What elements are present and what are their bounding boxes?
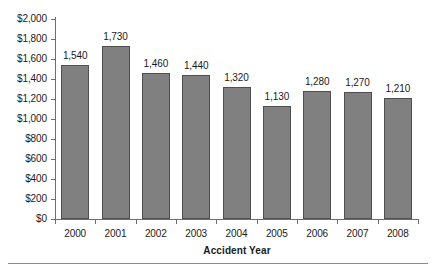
plot-area: 1,5401,7301,4601,4401,3201,1301,2801,270… [55, 19, 418, 219]
x-axis-tick-mark [257, 219, 258, 224]
y-axis-tick-label: $600 [25, 152, 47, 165]
x-axis-category-label: 2001 [94, 227, 138, 240]
bar [344, 92, 372, 219]
bar-group: 1,540 [61, 19, 89, 219]
x-axis-tick-mark [337, 219, 338, 224]
y-axis-tick-label: $1,600 [17, 52, 47, 65]
y-axis-tick-label: $0 [36, 212, 47, 225]
x-axis-category-label: 2003 [174, 227, 218, 240]
bar [303, 91, 331, 219]
x-axis-tick-mark [136, 219, 137, 224]
x-axis-tick-mark [418, 219, 419, 224]
y-axis-tick-label: $400 [25, 172, 47, 185]
bar-value-label: 1,130 [257, 91, 297, 103]
x-axis-category-label: 2005 [255, 227, 299, 240]
x-axis-tick-mark [297, 219, 298, 224]
bar [61, 65, 89, 219]
bar-group: 1,210 [384, 19, 412, 219]
bar-group: 1,460 [142, 19, 170, 219]
bar [223, 87, 251, 219]
y-axis-tick-label: $200 [25, 192, 47, 205]
x-axis-line [55, 219, 419, 220]
y-axis-tick-label: $2,000 [17, 12, 47, 25]
y-axis-tick-label: $1,400 [17, 72, 47, 85]
y-axis-tick-label: $1,200 [17, 92, 47, 105]
bar-value-label: 1,460 [136, 58, 176, 70]
bar-group: 1,130 [263, 19, 291, 219]
y-axis-tick-label: $1,000 [17, 112, 47, 125]
x-axis-category-label: 2006 [295, 227, 339, 240]
bar [142, 73, 170, 219]
bar-group: 1,320 [223, 19, 251, 219]
y-axis-tick-label: $1,800 [17, 32, 47, 45]
x-axis-category-label: 2008 [376, 227, 420, 240]
bar-value-label: 1,270 [338, 77, 378, 89]
bar [182, 75, 210, 219]
bottom-divider [8, 263, 428, 264]
y-axis-tick-label: $800 [25, 132, 47, 145]
x-axis-category-label: 2007 [336, 227, 380, 240]
bar-value-label: 1,540 [55, 50, 95, 62]
x-axis-tick-mark [95, 219, 96, 224]
bar-value-label: 1,320 [217, 72, 257, 84]
bar-value-label: 1,210 [378, 83, 418, 95]
bar [263, 106, 291, 219]
bar [102, 46, 130, 219]
x-axis-category-label: 2000 [53, 227, 97, 240]
bar-group: 1,730 [102, 19, 130, 219]
x-axis-tick-mark [55, 219, 56, 224]
bar-chart-figure: $0$200$400$600$800$1,000$1,200$1,400$1,6… [0, 0, 439, 272]
x-axis-tick-mark [216, 219, 217, 224]
x-axis-tick-mark [176, 219, 177, 224]
x-axis-title: Accident Year [55, 245, 419, 256]
bar-group: 1,280 [303, 19, 331, 219]
bar-group: 1,440 [182, 19, 210, 219]
bar-value-label: 1,440 [176, 60, 216, 72]
x-axis-tick-mark [378, 219, 379, 224]
bar [384, 98, 412, 219]
x-axis-category-label: 2004 [215, 227, 259, 240]
bar-value-label: 1,730 [96, 31, 136, 43]
bar-group: 1,270 [344, 19, 372, 219]
bar-value-label: 1,280 [297, 76, 337, 88]
x-axis-category-label: 2002 [134, 227, 178, 240]
